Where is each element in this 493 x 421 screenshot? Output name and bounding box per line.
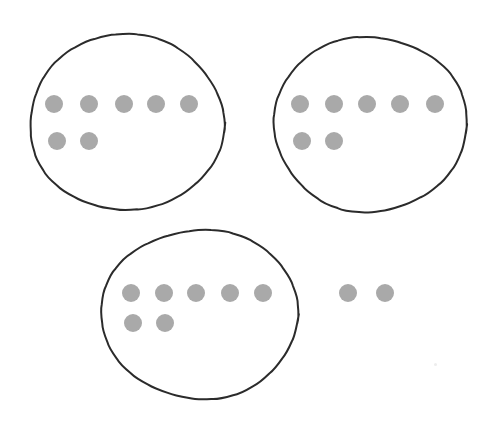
group-2-outline-icon xyxy=(272,35,468,213)
group-1-oval[interactable] xyxy=(28,33,225,212)
scan-speck xyxy=(434,363,437,366)
group-3-dot[interactable] xyxy=(155,284,173,302)
group-1-dot[interactable] xyxy=(80,95,98,113)
group-2-dot[interactable] xyxy=(426,95,444,113)
group-1-dot[interactable] xyxy=(45,95,63,113)
group-2-dot[interactable] xyxy=(291,95,309,113)
group-2-dot[interactable] xyxy=(391,95,409,113)
group-3-dot[interactable] xyxy=(124,314,142,332)
group-3-dot[interactable] xyxy=(122,284,140,302)
group-3-dot[interactable] xyxy=(254,284,272,302)
group-2-dot[interactable] xyxy=(358,95,376,113)
group-2-dot[interactable] xyxy=(293,132,311,150)
group-1-outline-icon xyxy=(28,33,225,212)
ungrouped-dot[interactable] xyxy=(339,284,357,302)
group-1-dot[interactable] xyxy=(147,95,165,113)
group-1-dot[interactable] xyxy=(48,132,66,150)
group-1-dot[interactable] xyxy=(180,95,198,113)
group-3-dot[interactable] xyxy=(187,284,205,302)
group-1-dot[interactable] xyxy=(80,132,98,150)
group-3-dot[interactable] xyxy=(221,284,239,302)
group-2-dot[interactable] xyxy=(325,95,343,113)
group-2-dot[interactable] xyxy=(325,132,343,150)
ungrouped-dot[interactable] xyxy=(376,284,394,302)
group-1-dot[interactable] xyxy=(115,95,133,113)
group-2-oval[interactable] xyxy=(272,35,468,213)
group-3-dot[interactable] xyxy=(156,314,174,332)
worksheet-canvas xyxy=(0,0,493,421)
